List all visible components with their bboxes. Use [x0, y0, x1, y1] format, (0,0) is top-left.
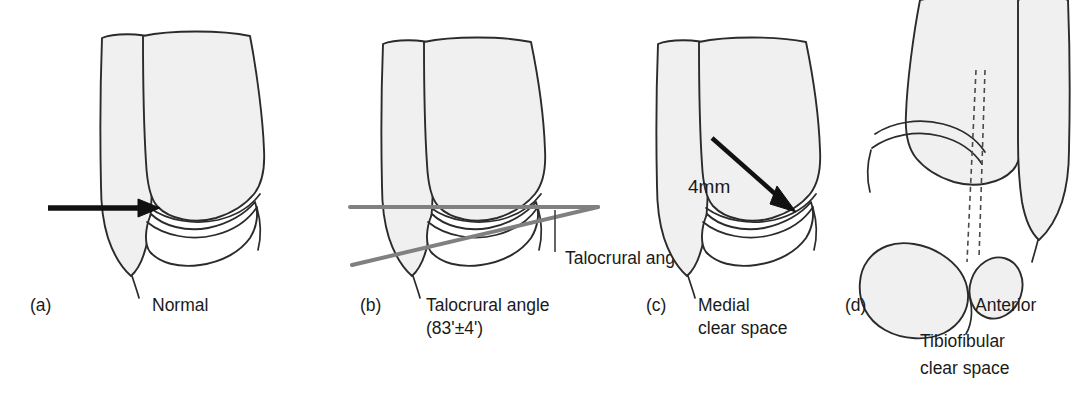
panel-d-caption-line-3: clear space: [920, 357, 1010, 380]
panel-b-caption-line-1: Talocrural angle: [426, 294, 550, 317]
medial-clear-space-measurement: 4mm: [688, 176, 730, 197]
panel-d-tag: (d): [845, 294, 866, 317]
panel-d-illustration: [845, 0, 1079, 300]
tibia-shape-a: [143, 32, 264, 221]
fibula-tip-line-a: [132, 276, 139, 298]
panel-d-tibiofibular-clear-space: (d) Anterior Tibiofibular clear space: [845, 0, 1079, 399]
panel-c-tag: (c): [646, 294, 666, 317]
ankle-radiographic-measurement-figure: (a) Normal: [0, 0, 1079, 399]
panel-b-talocrural-angle: Talocrural angle (b) Talocrural angle (8…: [330, 0, 630, 399]
panel-d-caption-line-1: Anterior: [975, 294, 1036, 317]
panel-c-caption-line-1: Medial: [698, 294, 750, 317]
panel-a-caption-line-1: Normal: [152, 294, 208, 317]
panel-c-caption-line-2: clear space: [698, 317, 788, 340]
fibula-tip-line-d: [1032, 240, 1038, 262]
tibia-cross-section-d: [860, 243, 968, 338]
tibia-shape-d: [906, 0, 1027, 185]
panel-c-illustration: [630, 0, 845, 300]
panel-a-normal: (a) Normal: [0, 0, 330, 399]
panel-c-medial-clear-space: 4mm (c) Medial clear space: [630, 0, 845, 399]
panel-d-caption-line-2: Tibiofibular: [920, 330, 1005, 353]
medial-malleolus-line-d: [868, 150, 871, 192]
panel-a-tag: (a): [30, 294, 51, 317]
panel-b-caption-line-2: (83'±4'): [426, 317, 483, 340]
tibia-shape-b: [424, 38, 545, 221]
fibula-tip-line-b: [413, 276, 420, 298]
fibula-tip-line-c: [688, 276, 695, 298]
fibula-shape-d: [1018, 0, 1070, 240]
panel-a-illustration: [0, 0, 330, 300]
panel-b-tag: (b): [360, 294, 381, 317]
